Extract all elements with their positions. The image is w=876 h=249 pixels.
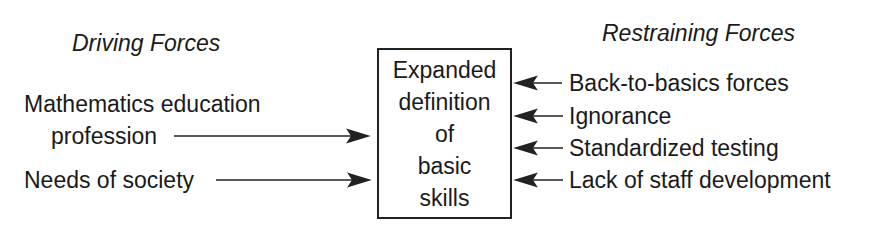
restraining-arrow-2-icon (516, 110, 563, 122)
force-arrows (0, 0, 876, 249)
driving-arrow-1-icon (174, 130, 368, 142)
driving-arrow-2-icon (216, 174, 369, 186)
restraining-arrow-4-icon (516, 174, 563, 186)
restraining-arrow-3-icon (516, 142, 563, 154)
restraining-arrow-1-icon (516, 77, 562, 89)
